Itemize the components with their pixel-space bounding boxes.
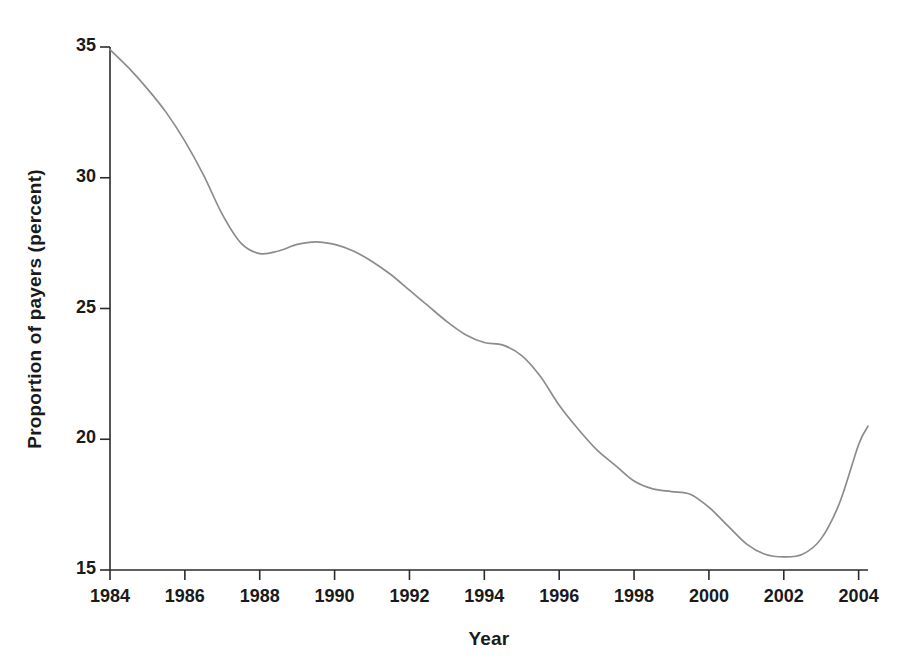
line-chart-plot	[0, 0, 922, 670]
x-axis-ticks	[110, 570, 859, 580]
y-axis-tick-label: 20	[48, 427, 96, 448]
y-axis-tick-label: 30	[48, 166, 96, 187]
chart-figure: Proportion of payers (percent) Year 1520…	[0, 0, 922, 670]
y-axis-ticks	[100, 47, 110, 570]
y-axis-tick-label: 25	[48, 297, 96, 318]
x-axis-tick-label: 2004	[814, 586, 904, 607]
y-axis-tick-label: 15	[48, 558, 96, 579]
y-axis-tick-label: 35	[48, 35, 96, 56]
axis-lines	[110, 47, 868, 570]
y-axis-title: Proportion of payers (percent)	[23, 169, 45, 448]
data-series-line	[110, 50, 868, 557]
x-axis-title: Year	[469, 628, 510, 650]
